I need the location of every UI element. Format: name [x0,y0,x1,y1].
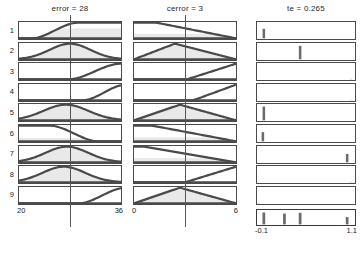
rule-9-te-cell [256,186,356,205]
rule-6-te-cell [256,124,356,143]
rule-index-2: 2 [0,47,14,55]
rule-7-te-cell [256,145,356,164]
rule-index-6: 6 [0,130,14,138]
input-cerror-title: cerror = 3 [133,4,237,13]
rule-3-te-cell [256,62,356,81]
rule-1-te-cell [256,21,356,40]
cerror-input-indicator-line[interactable] [185,15,186,227]
error-axis-min-label: 20 [17,207,25,215]
rule-2-te-cell [256,42,356,61]
input-error-title: error = 28 [18,4,122,13]
rule-index-9: 9 [0,191,14,199]
error-input-indicator-line[interactable] [70,15,71,227]
rule-index-7: 7 [0,150,14,158]
te-axis-min-label: -0.1 [255,227,268,235]
output-te-title: te = 0.265 [256,4,356,13]
rule-index-3: 3 [0,68,14,76]
rule-index-5: 5 [0,109,14,117]
error-axis-max-label: 36 [115,207,123,215]
rule-4-te-cell [256,83,356,102]
fuzzy-rule-viewer: error = 28 20 36 123456789 cerror = 3 0 … [0,0,360,257]
input-column-cerror: cerror = 3 0 6 [133,0,237,257]
input-column-error: error = 28 20 36 [18,0,122,257]
rule-index-1: 1 [0,27,14,35]
te-axis-max-label: 1.1 [347,227,357,235]
output-column-te: te = 0.265 -0.1 1.1 [256,0,356,257]
cerror-axis-min-label: 0 [132,207,136,215]
cerror-axis-max-label: 6 [234,207,238,215]
rule-index-4: 4 [0,88,14,96]
rule-5-te-cell [256,103,356,122]
rule-index-8: 8 [0,171,14,179]
aggregate-output-cell [256,209,356,226]
rule-8-te-cell [256,165,356,184]
